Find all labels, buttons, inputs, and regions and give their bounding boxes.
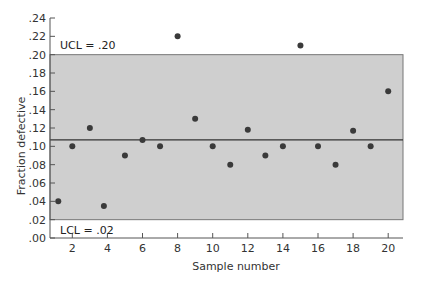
y-tick-label: .10 xyxy=(29,140,47,153)
y-tick-label: .06 xyxy=(29,177,47,190)
x-axis-title: Sample number xyxy=(192,260,280,273)
y-axis-title: Fraction defective xyxy=(15,97,28,196)
data-point xyxy=(315,143,321,149)
y-tick-label: .00 xyxy=(29,232,47,245)
y-tick-label: .14 xyxy=(29,104,47,117)
data-point xyxy=(262,153,268,159)
data-point xyxy=(122,153,128,159)
data-point xyxy=(210,143,216,149)
data-point xyxy=(55,198,61,204)
ucl-label: UCL = .20 xyxy=(60,39,116,52)
x-tick-label: 12 xyxy=(241,242,255,255)
y-tick-label: .18 xyxy=(29,67,47,80)
data-point xyxy=(297,43,303,49)
y-tick-label: .02 xyxy=(29,214,47,227)
y-tick-label: .04 xyxy=(29,195,47,208)
x-tick-label: 16 xyxy=(311,242,325,255)
data-point xyxy=(245,127,251,133)
data-point xyxy=(140,137,146,143)
x-tick-label: 6 xyxy=(139,242,146,255)
y-tick-label: .16 xyxy=(29,85,47,98)
control-band xyxy=(50,55,403,220)
control-chart: .00.02.04.06.08.10.12.14.16.18.20.22.242… xyxy=(0,0,421,289)
lcl-label: LCL = .02 xyxy=(60,224,114,237)
x-tick-label: 2 xyxy=(69,242,76,255)
data-point xyxy=(87,125,93,131)
data-point xyxy=(368,143,374,149)
y-tick-label: .22 xyxy=(29,30,47,43)
data-point xyxy=(175,33,181,39)
data-point xyxy=(69,143,75,149)
control-limit-band xyxy=(50,55,403,220)
data-point xyxy=(227,162,233,168)
x-tick-label: 20 xyxy=(381,242,395,255)
y-tick-label: .12 xyxy=(29,122,47,135)
x-tick-label: 18 xyxy=(346,242,360,255)
data-point xyxy=(192,116,198,122)
data-point xyxy=(350,128,356,134)
x-tick-label: 10 xyxy=(206,242,220,255)
y-tick-label: .24 xyxy=(29,12,47,25)
x-tick-label: 4 xyxy=(104,242,111,255)
x-tick-label: 8 xyxy=(174,242,181,255)
y-tick-label: .08 xyxy=(29,159,47,172)
data-point xyxy=(333,162,339,168)
data-point xyxy=(101,203,107,209)
y-tick-label: .20 xyxy=(29,49,47,62)
x-tick-label: 14 xyxy=(276,242,290,255)
data-point xyxy=(385,88,391,94)
data-point xyxy=(280,143,286,149)
data-point xyxy=(157,143,163,149)
